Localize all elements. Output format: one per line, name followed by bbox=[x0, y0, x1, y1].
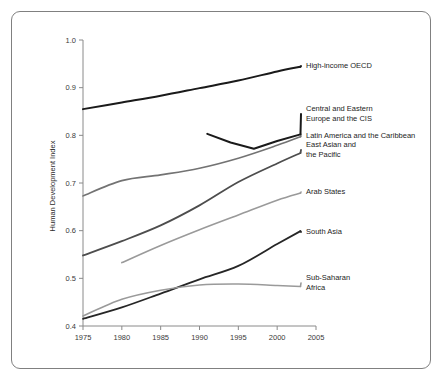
series-label: Arab States bbox=[306, 187, 345, 196]
x-tick-label: 1980 bbox=[113, 333, 130, 342]
x-tick-label: 1975 bbox=[75, 333, 92, 342]
x-tick-label: 1990 bbox=[191, 333, 208, 342]
series-label: East Asian and bbox=[306, 140, 356, 149]
series-label: the Pacific bbox=[306, 150, 341, 159]
series-leader-line bbox=[300, 66, 301, 67]
series-line bbox=[83, 284, 300, 316]
series-label: Europe and the CIS bbox=[306, 114, 372, 123]
x-tick-label: 2000 bbox=[269, 333, 286, 342]
y-tick-label: 1.0 bbox=[66, 36, 76, 45]
y-tick-label: 0.4 bbox=[66, 322, 76, 331]
chart-series-labels: High-income OECDCentral and EasternEurop… bbox=[300, 61, 415, 292]
x-tick-label: 1985 bbox=[152, 333, 169, 342]
chart-tick-labels: 0.40.50.60.70.80.91.01975198019851990199… bbox=[66, 36, 325, 342]
y-tick-label: 0.9 bbox=[66, 83, 76, 92]
series-label: Latin America and the Caribbean bbox=[306, 131, 415, 140]
chart-series bbox=[83, 67, 300, 319]
x-tick-label: 2005 bbox=[308, 333, 325, 342]
hdi-line-chart: High-income OECDCentral and EasternEurop… bbox=[0, 0, 444, 383]
series-label: Sub-Saharan bbox=[306, 273, 350, 282]
y-tick-label: 0.6 bbox=[66, 226, 76, 235]
series-label: Africa bbox=[306, 283, 326, 292]
series-label: High-income OECD bbox=[306, 61, 372, 70]
series-leader-line bbox=[300, 192, 301, 193]
chart-axes bbox=[79, 40, 316, 330]
series-leader-line bbox=[300, 150, 301, 153]
y-tick-label: 0.7 bbox=[66, 179, 76, 188]
series-line bbox=[122, 193, 301, 263]
series-line bbox=[83, 67, 300, 109]
series-leader-line bbox=[300, 283, 301, 286]
y-tick-label: 0.5 bbox=[66, 274, 76, 283]
x-tick-label: 1995 bbox=[230, 333, 247, 342]
series-label: Central and Eastern bbox=[306, 104, 373, 113]
y-axis-title: Human Development Index bbox=[48, 140, 57, 231]
series-leader-line bbox=[300, 136, 301, 137]
axis-lines bbox=[83, 40, 316, 326]
series-leader-line bbox=[300, 231, 301, 232]
series-line bbox=[83, 137, 300, 196]
series-label: South Asia bbox=[306, 227, 343, 236]
y-tick-label: 0.8 bbox=[66, 131, 76, 140]
series-leader-line bbox=[300, 114, 301, 134]
